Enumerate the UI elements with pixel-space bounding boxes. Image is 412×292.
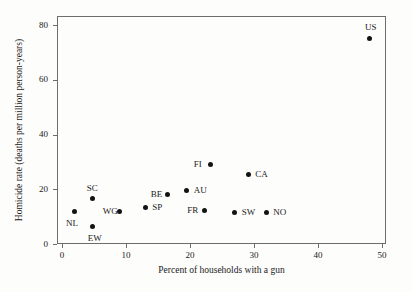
- data-point-label-sc: SC: [87, 184, 98, 193]
- scatter-plot-figure: 01020304050020406080 NLEWSCWGSPBEAUFRFIS…: [0, 0, 412, 292]
- data-point-label-ca: CA: [255, 170, 268, 179]
- data-point-label-us: US: [365, 23, 377, 32]
- data-point-labels-layer: NLEWSCWGSPBEAUFRFISWCANOUS: [0, 0, 412, 292]
- x-axis-title: Percent of households with a gun: [57, 265, 386, 275]
- data-point-label-wg: WG: [103, 207, 118, 216]
- data-point-label-sp: SP: [152, 203, 162, 212]
- data-point-label-fr: FR: [187, 206, 198, 215]
- data-point-label-au: AU: [194, 186, 207, 195]
- data-point-label-no: NO: [273, 208, 286, 217]
- data-point-label-ew: EW: [88, 234, 102, 243]
- data-point-label-fi: FI: [194, 160, 202, 169]
- data-point-label-be: BE: [151, 190, 163, 199]
- data-point-label-nl: NL: [66, 219, 78, 228]
- data-point-label-sw: SW: [242, 208, 256, 217]
- y-axis-title: Homicide rate (deaths per million person…: [14, 16, 28, 244]
